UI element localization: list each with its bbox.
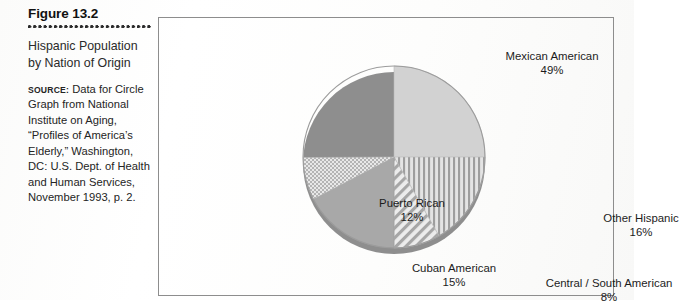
source-label: source: bbox=[28, 85, 69, 95]
figure-number: Figure 13.2 bbox=[28, 6, 152, 21]
source-note: source: Data for Circle Graph from Natio… bbox=[28, 82, 152, 206]
pie-label-other-hispanic-pct: 16% bbox=[603, 225, 678, 239]
figure-caption-block: Figure 13.2 Hispanic Population by Natio… bbox=[28, 6, 152, 206]
pie-label-puerto-rican-name: Puerto Rican bbox=[379, 197, 445, 209]
source-text: Data for Circle Graph from National Inst… bbox=[28, 83, 150, 203]
pie-label-other-hispanic-name: Other Hispanic bbox=[603, 212, 678, 224]
pie-label-mexican-american-pct: 49% bbox=[505, 63, 598, 77]
dotted-divider bbox=[28, 25, 152, 31]
pie-label-cuban-american: Cuban American 15% bbox=[412, 261, 496, 290]
pie-label-mexican-american: Mexican American 49% bbox=[505, 49, 598, 78]
pie-label-central-south-american: Central / South American 8% bbox=[546, 276, 673, 305]
pie-label-mexican-american-name: Mexican American bbox=[505, 50, 598, 62]
pie-label-cuban-american-pct: 15% bbox=[412, 275, 496, 289]
pie-label-cuban-american-name: Cuban American bbox=[412, 262, 496, 274]
pie-label-puerto-rican-pct: 12% bbox=[379, 210, 445, 224]
pie-label-central-south-american-pct: 8% bbox=[546, 290, 673, 304]
figure-title: Hispanic Population by Nation of Origin bbox=[28, 38, 152, 71]
pie-label-central-south-american-name: Central / South American bbox=[546, 277, 673, 289]
pie-label-other-hispanic: Other Hispanic 16% bbox=[603, 211, 678, 240]
pie-label-puerto-rican: Puerto Rican 12% bbox=[379, 196, 445, 225]
pie-chart: Mexican American 49% Other Hispanic 16% … bbox=[158, 17, 614, 296]
